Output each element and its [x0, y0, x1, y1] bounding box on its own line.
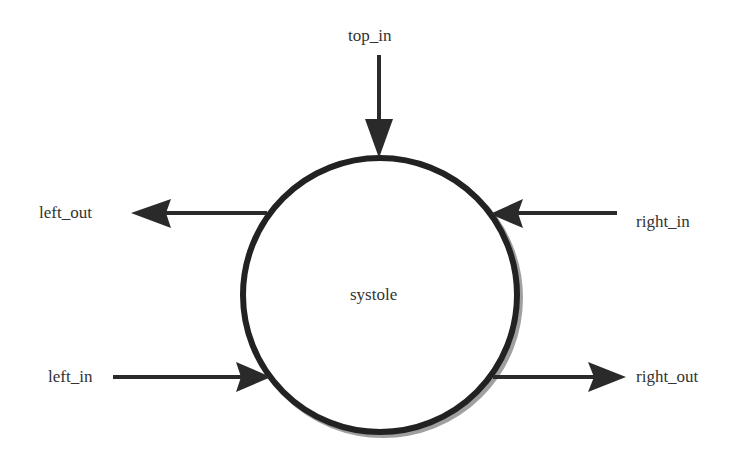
arrow-right-out	[493, 362, 626, 392]
label-right-out: right_out	[636, 367, 698, 387]
arrow-top-in	[365, 55, 393, 158]
arrow-left-out	[131, 199, 267, 228]
label-left-in: left_in	[48, 367, 92, 387]
label-left-out: left_out	[39, 203, 92, 223]
arrow-right-in	[490, 199, 617, 228]
arrow-left-in	[113, 362, 271, 392]
label-right-in: right_in	[636, 212, 690, 232]
node-label: systole	[350, 285, 397, 305]
label-top-in: top_in	[348, 26, 391, 46]
